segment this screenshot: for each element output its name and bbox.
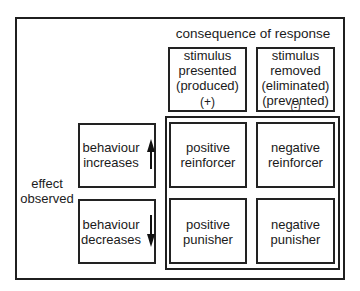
- cell-line: punisher: [258, 232, 333, 247]
- cell-positive-punisher: positive punisher: [169, 198, 247, 264]
- cell-line: positive: [171, 217, 245, 232]
- consequence-title: consequence of response: [168, 26, 338, 41]
- column-header-stimulus-removed: stimulus removed (eliminated) (prevented…: [256, 47, 335, 112]
- row-header-line: behaviour: [80, 217, 142, 232]
- row-header-line: increases: [80, 155, 142, 170]
- cell-line: negative: [258, 217, 333, 232]
- effect-observed-label: effect observed: [16, 176, 78, 206]
- cell-line: negative: [258, 140, 333, 155]
- column-header-line: stimulus: [258, 48, 333, 63]
- row-header-line: decreases: [80, 232, 142, 247]
- column-header-stimulus-presented: stimulus presented (produced) (+): [168, 47, 247, 112]
- minus-sign: (-): [258, 102, 333, 112]
- column-header-line: (eliminated): [258, 78, 333, 93]
- cell-line: reinforcer: [258, 155, 333, 170]
- side-label-line: observed: [16, 191, 78, 206]
- cell-positive-reinforcer: positive reinforcer: [169, 122, 247, 188]
- row-header-behaviour-increases: behaviour increases: [78, 123, 156, 188]
- plus-sign: (+): [170, 95, 245, 110]
- column-header-line: removed: [258, 63, 333, 78]
- row-header-behaviour-decreases: behaviour decreases: [78, 199, 156, 264]
- cell-negative-reinforcer: negative reinforcer: [256, 122, 335, 188]
- row-header-line: behaviour: [80, 140, 142, 155]
- side-label-line: effect: [16, 176, 78, 191]
- cell-line: positive: [171, 140, 245, 155]
- column-header-line: (produced): [170, 78, 245, 93]
- cell-negative-punisher: negative punisher: [256, 198, 335, 264]
- cell-line: reinforcer: [171, 155, 245, 170]
- column-header-line: presented: [170, 63, 245, 78]
- column-header-line: stimulus: [170, 48, 245, 63]
- cell-line: punisher: [171, 232, 245, 247]
